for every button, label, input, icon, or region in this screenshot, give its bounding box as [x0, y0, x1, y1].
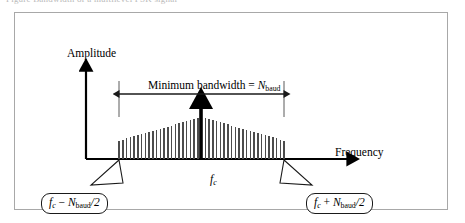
- callout-left-term-symbol: N: [68, 196, 76, 208]
- carrier-frequency-label: fc: [210, 173, 217, 187]
- callout-leader-right: [280, 160, 312, 185]
- callout-leader-left: [91, 160, 123, 185]
- callout-right-operator: +: [321, 196, 333, 208]
- bandwidth-annotation-subscript: baud: [265, 84, 280, 93]
- callout-right-term-subscript: baud: [341, 201, 356, 210]
- callout-right-divisor: /2: [356, 196, 365, 208]
- callout-left-term-subscript: baud: [76, 201, 91, 210]
- callout-left-operator: −: [56, 196, 68, 208]
- figure-frame: Amplitude Frequency Minimum bandwidth = …: [14, 12, 448, 210]
- bandwidth-annotation: Minimum bandwidth = Nbaud: [148, 79, 281, 93]
- callout-lower-edge-frequency: fc − Nbaud/2: [41, 193, 108, 214]
- clipped-caption-text: Figure Bandwidth of a multilevel FSK sig…: [6, 0, 465, 4]
- figure-container: Figure Bandwidth of a multilevel FSK sig…: [0, 0, 465, 223]
- callout-upper-edge-frequency: fc + Nbaud/2: [306, 193, 373, 214]
- spectrum-plot: [15, 13, 449, 211]
- bandwidth-annotation-prefix: Minimum bandwidth =: [148, 79, 258, 91]
- x-axis-label: Frequency: [335, 146, 384, 158]
- callout-left-divisor: /2: [91, 196, 100, 208]
- clipped-caption: Figure Bandwidth of a multilevel FSK sig…: [0, 0, 465, 7]
- callout-right-term-symbol: N: [333, 196, 341, 208]
- y-axis-label: Amplitude: [67, 47, 116, 59]
- carrier-subscript: c: [213, 178, 216, 187]
